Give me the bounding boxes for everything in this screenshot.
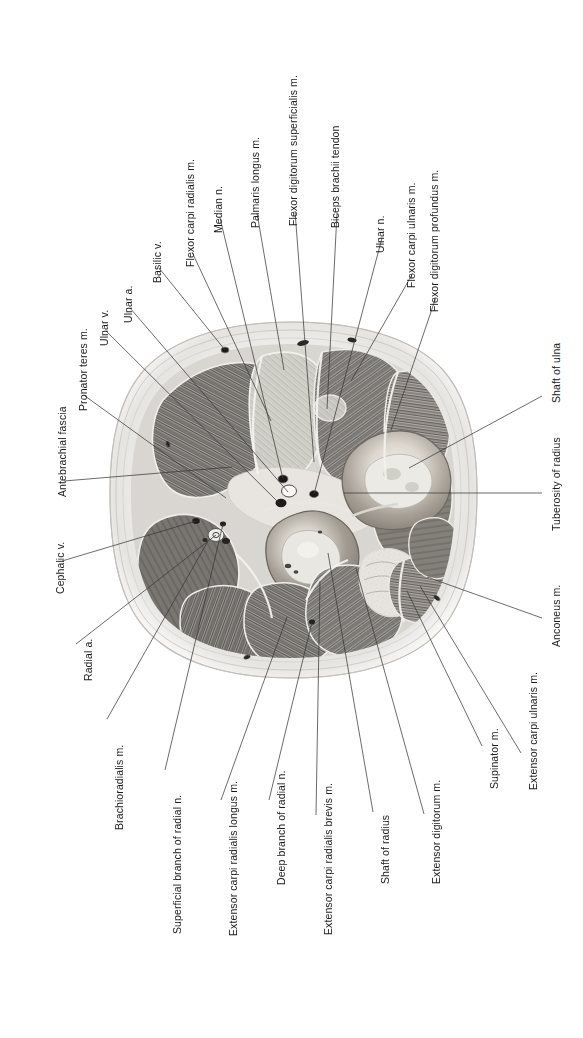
label-flexor-carpi-ulnaris-m: Flexor carpi ulnaris m. (406, 182, 417, 288)
label-flexor-carpi-radialis-m: Flexor carpi radialis m. (185, 159, 196, 267)
biceps-brachii-tendon-structure (314, 395, 346, 421)
label-biceps-brachii-tendon: Biceps brachii tendon (330, 126, 341, 229)
label-brachioradialis-m: Brachioradialis m. (114, 745, 125, 830)
label-cephalic-v: Cephalic v. (55, 542, 66, 594)
label-palmaris-longus-m: Palmaris longus m. (250, 137, 261, 228)
label-ulnar-a: Ulnar a. (123, 285, 134, 323)
label-basilic-v: Basilic v. (152, 241, 163, 283)
label-deep-branch-of-radial-n: Deep branch of radial n. (276, 771, 287, 885)
label-anconeus-m: Anconeus m. (551, 585, 562, 647)
label-median-n: Median n. (213, 186, 224, 233)
label-extensor-carpi-radialis-longus-m: Extensor carpi radialis longus m. (228, 781, 239, 936)
leader-extensor-carpi-ulnaris-m (420, 586, 521, 753)
label-flexor-digitorum-profundus-m: Flexor digitorum profundus m. (429, 170, 440, 312)
label-ulnar-n: Ulnar n. (375, 215, 386, 253)
label-shaft-of-radius: Shaft of radius (380, 815, 391, 884)
label-antebrachial-fascia: Antebrachial fascia (57, 406, 68, 497)
label-pronator-teres-m: Pronator teres m. (78, 328, 89, 411)
label-flexor-digitorum-superficialis-m: Flexor digitorum superficialis m. (288, 75, 299, 226)
leader-basilic-v (159, 268, 225, 350)
label-radial-a: Radial a. (83, 639, 94, 681)
label-supinator-m: Supinator m. (489, 728, 500, 789)
label-extensor-digitorum-m: Extensor digitorum m. (431, 780, 442, 884)
label-tuberosity-of-radius: Tuberosity of radius (551, 437, 562, 531)
label-superficial-branch-of-radial-n: Superficial branch of radial n. (172, 795, 183, 934)
label-extensor-carpi-ulnaris-m: Extensor carpi ulnaris m. (528, 672, 539, 790)
ulna-marrow (365, 454, 432, 508)
anatomy-plate: Antebrachial fasciaPronator teres m.Ulna… (0, 0, 583, 1038)
label-ulnar-v: Ulnar v. (99, 310, 110, 346)
label-extensor-carpi-radialis-brevis-m: Extensor carpi radialis brevis m. (323, 783, 334, 935)
label-shaft-of-ulna: Shaft of ulna (551, 343, 562, 403)
specimen-body (110, 320, 480, 686)
